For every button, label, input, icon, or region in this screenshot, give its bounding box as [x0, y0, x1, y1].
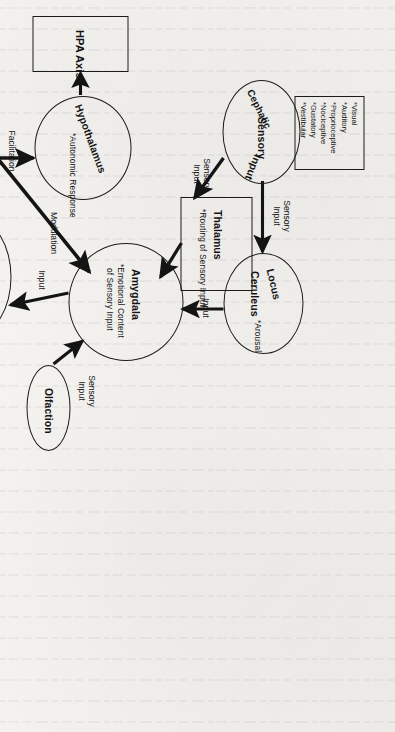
amygdala-item-1: *Emotional Content: [115, 264, 124, 338]
edge-label-line2: Input: [271, 190, 281, 242]
edge-label-facilitation: Facilitation: [5, 120, 15, 182]
edge-label-line1: Input: [199, 288, 209, 328]
node-amygdala[interactable]: Amygdala *Emotional Content of Sensory I…: [68, 243, 183, 361]
sensory-list-item: *Gustatory: [307, 102, 317, 154]
sensory-list-item: *Nociceptive: [317, 102, 327, 154]
edge-label-olfaction-to-amygdala: Sensory Input: [76, 365, 95, 417]
edge-label-cephalic-to-locus: Sensory Input: [271, 190, 290, 242]
locus-ceruleus-title-line1: Locus: [263, 268, 282, 301]
edge-label-line1: Modulation: [47, 202, 57, 264]
edge-label-line1: Sensory: [200, 148, 210, 200]
amygdala-title: Amygdala: [128, 269, 140, 320]
cephalic-word-2: Sensory: [254, 117, 266, 159]
edge-olfaction-to-amygdala: [53, 341, 82, 364]
edge-label-line1: Facilitation: [5, 120, 15, 182]
edge-label-line1: Sensory: [280, 190, 290, 242]
edge-label-amygdala-to-hippocampus: Input: [35, 260, 45, 300]
thalamus-title: Thalamus: [210, 210, 222, 260]
edge-label-cephalic-to-thalamus: Sensory Input: [191, 148, 210, 200]
hypothalamus-item: *Autonomic Response: [67, 133, 76, 218]
olfaction-title: Olfaction: [41, 388, 53, 434]
node-cephalic-sensory-input[interactable]: Cephalic Sensory Input: [222, 80, 300, 184]
edge-label-line1: Input: [35, 260, 45, 300]
edge-label-line1: Sensory: [85, 365, 95, 417]
diagram-canvas: *Visual *Auditory *Proprioceptive *Nocic…: [0, 0, 395, 732]
sensory-list-item: *Auditory: [337, 102, 347, 154]
amygdala-item-2: of Sensory Input: [104, 268, 113, 331]
sensory-list-item: *Visual: [348, 102, 358, 154]
locus-ceruleus-item: *Arousal: [252, 320, 261, 352]
edge-label-line2: Input: [76, 365, 86, 417]
cephalic-word-3: Input: [242, 153, 263, 182]
node-olfaction[interactable]: Olfaction: [26, 365, 70, 451]
node-hpa-axis[interactable]: HPA Axis: [32, 16, 128, 72]
edge-label-line2: Input: [191, 148, 201, 200]
hpa-axis-title: HPA Axis: [73, 30, 85, 79]
edge-label-locus-to-amygdala: Input: [199, 288, 209, 328]
node-hypothalamus[interactable]: Hypothalamus *Autonomic Response: [34, 96, 131, 200]
diagram-stage: *Visual *Auditory *Proprioceptive *Nocic…: [0, 0, 395, 732]
sensory-list-item: *Proprioceptive: [327, 102, 337, 154]
node-sensory-list[interactable]: *Visual *Auditory *Proprioceptive *Nocic…: [294, 96, 364, 170]
node-thalamus[interactable]: Thalamus *Routing of Sensory Input: [180, 197, 252, 291]
edge-label-modulation: Modulation: [47, 202, 57, 264]
